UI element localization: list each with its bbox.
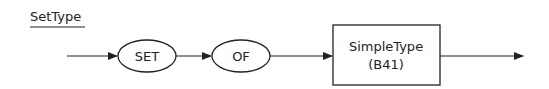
simpletype-label: SimpleType [349, 39, 423, 54]
of-label: OF [232, 49, 250, 64]
simpletype-node: SimpleType (B41) [333, 25, 440, 85]
of-node: OF [212, 40, 270, 72]
set-label: SET [135, 49, 159, 64]
diagram-title: SetType [30, 9, 81, 24]
set-node: SET [118, 40, 176, 72]
syntax-diagram: SetType SET OF SimpleType (B41) [0, 0, 549, 89]
simpletype-ref-label: (B41) [368, 57, 404, 72]
